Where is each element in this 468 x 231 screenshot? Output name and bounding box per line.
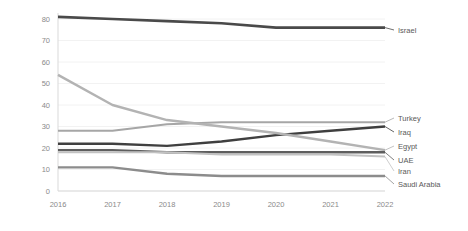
x-tick-label: 2016	[50, 200, 67, 209]
x-tick-label: 2018	[159, 200, 176, 209]
y-axis-tick-labels: 01020304050607080	[42, 15, 50, 196]
x-tick-label: 2019	[213, 200, 230, 209]
legend-label-turkey: Turkey	[398, 114, 421, 123]
y-tick-label: 80	[42, 15, 50, 24]
legend-leader-iraq	[385, 127, 394, 133]
legend-leader-turkey	[385, 118, 394, 122]
chart-canvas: 01020304050607080 2016201720182019202020…	[0, 0, 468, 231]
y-tick-label: 50	[42, 79, 50, 88]
y-tick-label: 70	[42, 36, 50, 45]
y-tick-label: 40	[42, 101, 50, 110]
y-tick-label: 20	[42, 144, 50, 153]
chart-svg: 01020304050607080 2016201720182019202020…	[0, 0, 468, 231]
legend-leader-saudi-arabia	[385, 176, 394, 184]
x-tick-label: 2022	[377, 200, 394, 209]
legend-label-israel: Israel	[398, 26, 417, 35]
legend-label-iraq: Iraq	[398, 128, 411, 137]
line-chart: 01020304050607080 2016201720182019202020…	[0, 0, 468, 231]
y-tick-label: 10	[42, 165, 50, 174]
y-tick-label: 30	[42, 122, 50, 131]
legend-leader-egypt	[385, 146, 394, 150]
x-axis-tick-labels: 2016201720182019202020212022	[50, 200, 394, 209]
legend-label-iran: Iran	[398, 167, 411, 176]
legend: IsraelTurkeyIraqEgyptUAEIranSaudi Arabia	[398, 26, 441, 189]
x-tick-label: 2017	[104, 200, 121, 209]
gridlines	[58, 19, 385, 191]
series-line-egypt	[58, 75, 385, 150]
legend-label-saudi-arabia: Saudi Arabia	[398, 180, 441, 189]
y-tick-label: 0	[46, 187, 50, 196]
x-tick-label: 2020	[268, 200, 285, 209]
series-line-saudi-arabia	[58, 167, 385, 176]
legend-leader-lines	[385, 28, 394, 184]
x-tick-label: 2021	[322, 200, 339, 209]
legend-label-egypt: Egypt	[398, 142, 418, 151]
y-tick-label: 60	[42, 58, 50, 67]
legend-label-uae: UAE	[398, 156, 413, 165]
series-line-israel	[58, 17, 385, 28]
legend-leader-israel	[385, 28, 394, 30]
